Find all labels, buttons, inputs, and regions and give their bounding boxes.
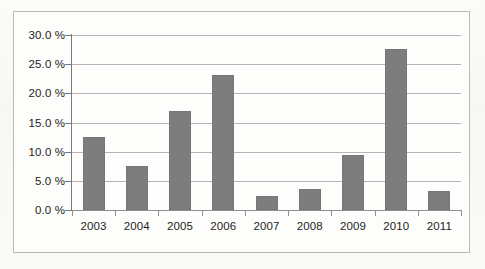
bar-2011 [428, 191, 450, 210]
gridline-30 [72, 35, 461, 36]
y-axis-tick [65, 64, 72, 65]
y-axis-tick [65, 35, 72, 36]
x-axis-tick [418, 210, 419, 216]
y-axis-tick [65, 93, 72, 94]
x-axis-tick-label-2010: 2010 [383, 220, 409, 232]
x-axis-tick-label-2006: 2006 [210, 220, 236, 232]
x-axis-tick-label-2005: 2005 [167, 220, 193, 232]
y-axis-tick [65, 152, 72, 153]
bar-2004 [126, 166, 148, 210]
bar-2009 [342, 155, 364, 210]
x-axis-tick [461, 210, 462, 216]
x-axis-tick-label-2009: 2009 [340, 220, 366, 232]
y-axis-tick-label: 30.0 % [29, 29, 65, 41]
y-axis-tick-label: 20.0 % [29, 87, 65, 99]
x-axis-tick-label-2008: 2008 [297, 220, 323, 232]
y-axis-tick [65, 210, 72, 211]
y-axis-tick-label: 5.0 % [35, 175, 65, 187]
x-axis-tick-label-2011: 2011 [427, 220, 452, 232]
x-axis-tick-label-2003: 2003 [81, 220, 107, 232]
chart-plot-wrapper: 0.0 %5.0 %10.0 %15.0 %20.0 %25.0 %30.0 %… [14, 12, 469, 252]
y-axis-tick-label: 0.0 % [35, 204, 65, 216]
bar-2003 [83, 137, 105, 210]
bar-2005 [169, 111, 191, 210]
y-axis-tick-label: 25.0 % [29, 58, 65, 70]
x-axis-tick-label-2007: 2007 [254, 220, 280, 232]
y-axis-labels: 0.0 %5.0 %10.0 %15.0 %20.0 %25.0 %30.0 % [14, 12, 70, 254]
x-axis-tick [72, 210, 73, 216]
plot-area [72, 35, 461, 210]
x-axis-tick [158, 210, 159, 216]
x-axis-labels: 200320042005200620072008200920102011 [72, 220, 461, 246]
y-axis-tick [65, 123, 72, 124]
x-axis-tick [288, 210, 289, 216]
x-axis-tick [375, 210, 376, 216]
x-axis-tick [115, 210, 116, 216]
bar-2006 [212, 75, 234, 210]
y-axis-tick-label: 15.0 % [29, 117, 65, 129]
y-axis-tick [65, 181, 72, 182]
bar-2010 [385, 49, 407, 210]
y-axis-tick-label: 10.0 % [29, 146, 65, 158]
bar-2007 [256, 196, 278, 210]
gridline-0 [72, 210, 461, 211]
bar-2008 [299, 189, 321, 210]
x-axis-tick-label-2004: 2004 [124, 220, 150, 232]
x-axis-tick [202, 210, 203, 216]
chart-frame: 0.0 %5.0 %10.0 %15.0 %20.0 %25.0 %30.0 %… [13, 11, 470, 253]
x-axis-tick [245, 210, 246, 216]
x-axis-tick [331, 210, 332, 216]
